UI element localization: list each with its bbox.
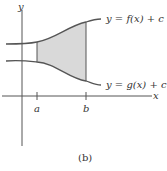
shaded-region [37,22,86,81]
curve-f-label: y = f(x) + c [105,13,164,24]
tick-label-a: a [34,103,40,114]
tick-label-b: b [83,103,89,114]
area-between-curves-diagram: y x a b y = f(x) + c y = g(x) + c (b) [0,0,167,171]
figure-caption: (b) [78,152,92,163]
x-axis-label: x [153,90,159,101]
curve-g-label: y = g(x) + c [105,79,167,90]
y-axis-label: y [17,1,24,12]
